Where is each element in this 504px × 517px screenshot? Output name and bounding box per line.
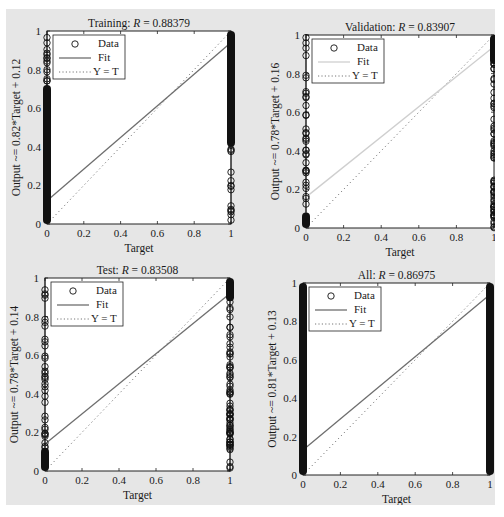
regression-plots: 000.20.20.40.40.60.60.80.811DataFitY = T… [6, 9, 495, 505]
legend-label: Y = T [349, 317, 375, 329]
y-tick-label: 0.2 [283, 431, 297, 443]
x-tick-label: 0.8 [446, 478, 460, 490]
x-tick-label: 0.4 [112, 474, 126, 486]
y-tick-label: 0.4 [25, 388, 39, 400]
x-tick-label: 0.4 [114, 227, 128, 239]
y-axis-label: Output ~= 0.82*Target + 0.12 [10, 58, 23, 196]
x-tick-label: 0 [44, 227, 50, 239]
x-tick-label: 1 [487, 478, 493, 490]
legend-label: Y = T [352, 69, 378, 81]
x-tick-label: 0 [42, 474, 48, 486]
y-tick-label: 0 [34, 465, 40, 477]
plot-validation: 000.20.20.40.40.60.60.80.811DataFitY = T… [269, 21, 495, 259]
y-tick-label: 0.8 [25, 311, 39, 323]
x-tick-label: 0.2 [75, 474, 89, 486]
y-axis-label: Output ~= 0.78*Target + 0.16 [269, 62, 282, 200]
x-axis-label: Target [123, 489, 153, 502]
data-cluster [486, 283, 494, 475]
legend-label: Fit [357, 55, 369, 67]
x-tick-label: 0.8 [186, 474, 200, 486]
x-tick-label: 1 [491, 231, 495, 243]
x-axis-label: Target [386, 246, 416, 259]
y-tick-label: 0.2 [286, 183, 300, 195]
x-tick-label: 0.8 [450, 231, 464, 243]
y-tick-label: 0.6 [286, 106, 300, 118]
plot-title: All: R = 0.86975 [358, 269, 436, 281]
y-tick-label: 0.8 [27, 64, 41, 76]
legend-label: Data [354, 289, 375, 301]
legend-label: Fit [96, 298, 108, 310]
y-tick-label: 0 [295, 222, 301, 234]
x-tick-label: 0.4 [371, 478, 385, 490]
y-tick-label: 0 [292, 469, 298, 481]
y-tick-label: 0.8 [283, 315, 297, 327]
x-axis-label: Target [125, 242, 155, 255]
x-tick-label: 0.2 [77, 227, 91, 239]
y-tick-label: 0.6 [27, 102, 41, 114]
y-tick-label: 0.4 [283, 392, 297, 404]
plot-title: Validation: R = 0.83907 [345, 21, 455, 33]
y-tick-label: 1 [34, 272, 40, 284]
x-tick-label: 0.2 [334, 478, 348, 490]
legend-label: Data [98, 37, 119, 49]
y-tick-label: 0 [36, 218, 42, 230]
x-tick-label: 0.6 [151, 227, 165, 239]
legend-label: Fit [98, 51, 110, 63]
y-tick-label: 0.8 [286, 68, 300, 80]
y-axis-label: Output ~= 0.81*Target + 0.13 [266, 310, 279, 448]
x-tick-label: 0.2 [337, 231, 351, 243]
x-tick-label: 0.6 [149, 474, 163, 486]
legend-label: Y = T [91, 312, 117, 324]
data-cluster [227, 31, 235, 147]
plot-test: 000.20.20.40.40.60.60.80.811DataFitY = T… [8, 264, 234, 502]
y-tick-label: 1 [292, 277, 298, 289]
y-tick-label: 0.2 [25, 426, 39, 438]
x-tick-label: 0.8 [187, 227, 201, 239]
x-tick-label: 0.4 [374, 231, 388, 243]
plot-title: Training: R = 0.88379 [88, 17, 190, 30]
y-axis-label: Output ~= 0.78*Target + 0.14 [8, 305, 21, 443]
x-axis-label: Target [382, 493, 412, 505]
x-tick-label: 0.6 [412, 231, 426, 243]
legend-label: Data [96, 284, 117, 296]
regression-figure: 000.20.20.40.40.60.60.80.811DataFitY = T… [6, 9, 495, 505]
y-tick-label: 1 [36, 25, 42, 37]
x-tick-label: 0.6 [408, 478, 422, 490]
y-tick-label: 0.4 [286, 145, 300, 157]
y-tick-label: 1 [295, 29, 301, 41]
legend-label: Fit [354, 303, 366, 315]
data-cluster [302, 213, 310, 228]
data-cluster [43, 85, 51, 224]
y-tick-label: 0.6 [283, 354, 297, 366]
x-tick-label: 1 [228, 227, 234, 239]
plot-all: 000.20.20.40.40.60.60.80.811DataFitY = T… [266, 269, 494, 505]
plot-title: Test: R = 0.83508 [97, 264, 179, 276]
y-tick-label: 0.6 [25, 349, 39, 361]
x-tick-label: 0 [303, 231, 309, 243]
legend-label: Data [357, 41, 378, 53]
y-tick-label: 0.2 [27, 179, 41, 191]
x-tick-label: 0 [300, 478, 306, 490]
data-cluster [490, 35, 495, 64]
legend-label: Y = T [93, 65, 119, 77]
x-tick-label: 1 [227, 474, 233, 486]
plot-training: 000.20.20.40.40.60.60.80.811DataFitY = T… [10, 17, 235, 255]
data-cluster [299, 283, 307, 475]
data-cluster [226, 278, 234, 301]
y-tick-label: 0.4 [27, 141, 41, 153]
